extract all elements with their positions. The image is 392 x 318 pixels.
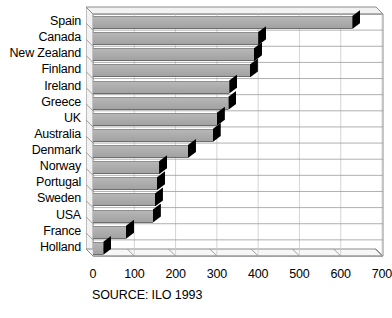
bar-body: [93, 64, 250, 77]
bar-body: [93, 16, 352, 29]
x-axis-tick-label: 700: [372, 268, 392, 281]
category-label: Sweden: [37, 192, 81, 205]
bar-body: [93, 145, 188, 158]
category-label: USA: [56, 209, 81, 222]
category-label: New Zealand: [10, 47, 81, 60]
category-label: Greece: [41, 96, 81, 109]
bar-body: [93, 161, 159, 174]
x-axis-tick-label: 500: [289, 268, 309, 281]
category-label: Portugal: [36, 176, 81, 189]
bar-body: [93, 177, 157, 190]
category-label: Norway: [40, 160, 81, 173]
bar-body: [93, 210, 153, 223]
x-axis-tick-label: 400: [248, 268, 268, 281]
bars-layer: 6284003903803303283002902301601551501458…: [93, 14, 383, 256]
bar-body: [93, 193, 155, 206]
category-label: Holland: [40, 241, 81, 254]
category-label: Denmark: [32, 144, 81, 157]
category-label: Ireland: [44, 80, 81, 93]
bar-body: [93, 226, 126, 239]
bar-body: [93, 32, 258, 45]
bar-body: [93, 242, 103, 255]
x-axis-tick-label: 300: [207, 268, 227, 281]
category-label: Spain: [50, 15, 81, 28]
bar-body: [93, 48, 254, 61]
bar-body: [93, 113, 217, 126]
category-label: Australia: [34, 128, 81, 141]
x-axis-tick-label: 600: [331, 268, 351, 281]
x-axis-tick-label: 200: [165, 268, 185, 281]
value-axis: 0100200300400500600700: [0, 268, 390, 284]
bar-end-cap: [228, 91, 236, 110]
category-label: France: [43, 225, 81, 238]
bar-body: [93, 81, 229, 94]
bar-body: [93, 97, 228, 110]
category-label: Canada: [38, 31, 81, 44]
category-label: Finland: [41, 63, 81, 76]
x-axis-tick-label: 0: [90, 268, 97, 281]
x-axis-tick-label: 100: [124, 268, 144, 281]
category-axis: SpainCanadaNew ZealandFinlandIrelandGree…: [0, 13, 84, 255]
category-label: UK: [64, 112, 81, 125]
source-caption: SOURCE: ILO 1993: [92, 289, 202, 302]
